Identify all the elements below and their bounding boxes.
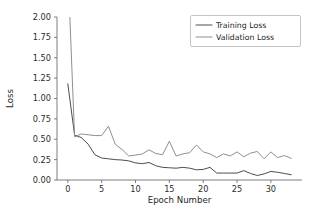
chart-figure: 0.000.250.500.751.001.251.501.752.00 051… xyxy=(0,0,316,215)
y-tick-label: 0.00 xyxy=(33,175,51,185)
y-tick-label: 2.00 xyxy=(33,12,51,22)
x-tick-label: 5 xyxy=(99,184,104,194)
y-tick-label: 1.25 xyxy=(33,73,51,83)
legend-label-validation: Validation Loss xyxy=(216,33,274,42)
y-tick-label: 1.50 xyxy=(33,53,51,63)
y-tick-label: 1.00 xyxy=(33,93,51,103)
y-tick-label: 1.75 xyxy=(33,32,51,42)
x-tick-label: 10 xyxy=(130,184,140,194)
x-axis-title: Epoch Number xyxy=(148,195,212,205)
x-tick-label: 30 xyxy=(266,184,276,194)
y-tick-label: 0.25 xyxy=(33,155,51,165)
x-tick-label: 15 xyxy=(164,184,174,194)
loss-curve-chart: 0.000.250.500.751.001.251.501.752.00 051… xyxy=(0,0,316,215)
y-tick-label: 0.50 xyxy=(33,134,51,144)
x-tick-label: 25 xyxy=(232,184,242,194)
y-axis-title: Loss xyxy=(5,89,15,108)
y-tick-label: 0.75 xyxy=(33,114,51,124)
x-tick-label: 20 xyxy=(198,184,208,194)
x-tick-label: 0 xyxy=(65,184,70,194)
legend-label-training: Training Loss xyxy=(215,21,266,30)
y-axis-tick-labels: 0.000.250.500.751.001.251.501.752.00 xyxy=(33,12,51,185)
chart-legend: Training Loss Validation Loss xyxy=(191,16,301,47)
